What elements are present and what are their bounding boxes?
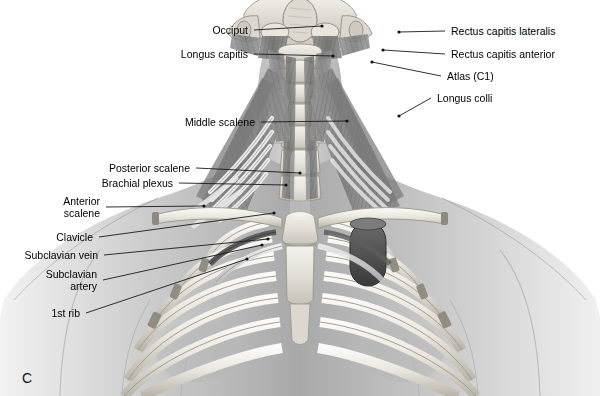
anchor-dot-clavicle: [272, 211, 275, 214]
label-posterior-scalene: Posterior scalene: [109, 162, 190, 174]
label-rectus-capitis-anterior: Rectus capitis anterior: [451, 48, 555, 60]
anchor-dot-anterior-scalene: [202, 204, 205, 207]
trachea-overlay: [290, 150, 310, 220]
label-clavicle: Clavicle: [56, 231, 93, 243]
anatomy-figure: OcciputLongus capitisMiddle scalenePoste…: [0, 0, 600, 396]
anchor-dot-occiput: [320, 24, 323, 27]
anchor-dot-posterior-scalene: [298, 171, 301, 174]
anchor-dot-rectus-capitis-lateralis: [397, 30, 400, 33]
anchor-dot-longus-capitis: [331, 54, 334, 57]
label-rectus-capitis-lateralis: Rectus capitis lateralis: [451, 25, 555, 37]
anchor-dot-rectus-capitis-anterior: [381, 48, 384, 51]
label-occiput: Occiput: [212, 24, 248, 36]
label-longus-capitis: Longus capitis: [181, 48, 248, 60]
anchor-dot-middle-scalene: [345, 119, 348, 122]
anchor-dot-first-rib: [245, 257, 248, 260]
label-longus-colli: Longus colli: [437, 92, 492, 104]
anchor-dot-atlas-c1: [370, 60, 373, 63]
label-first-rib: 1st rib: [51, 307, 80, 319]
label-subclavian-artery: Subclavian artery: [46, 268, 97, 292]
anchor-dot-subclavian-artery: [260, 243, 263, 246]
label-middle-scalene: Middle scalene: [185, 116, 255, 128]
anchor-dot-brachial-plexus: [284, 183, 287, 186]
label-subclavian-vein: Subclavian vein: [24, 249, 98, 261]
panel-letter: C: [22, 370, 32, 386]
anchor-dot-subclavian-vein: [266, 237, 269, 240]
label-brachial-plexus: Brachial plexus: [102, 177, 173, 189]
label-atlas-c1: Atlas (C1): [447, 70, 494, 82]
anchor-dot-longus-colli: [397, 114, 400, 117]
label-anterior-scalene: Anterior scalene: [63, 195, 100, 219]
